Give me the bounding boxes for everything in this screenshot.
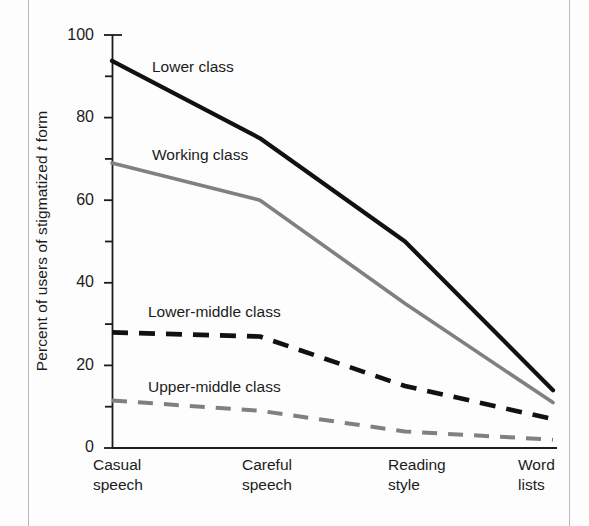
series-line-lower-class [112,61,553,390]
x-tick-label-line1: Reading [388,455,446,475]
y-tick-label-100: 100 [52,26,94,44]
x-tick-label-line2: style [388,475,446,495]
x-tick-label-line2: speech [242,475,292,495]
y-tick-label-60: 60 [52,191,94,209]
y-tick-label-40: 40 [52,273,94,291]
x-tick-label-careful-speech: Careful speech [242,455,292,495]
y-tick-label-20: 20 [52,356,94,374]
series-annotation-lower-middle-class: Lower-middle class [148,303,281,321]
x-tick-label-casual-speech: Casual speech [93,455,143,495]
y-axis-title-italic: t [33,147,50,151]
x-tick-label-reading-style: Reading style [388,455,446,495]
y-tick-label-0: 0 [52,438,94,456]
x-tick-label-line2: lists [518,475,555,495]
line-chart-figure: Percent of users of stigmatized t form 1… [0,0,589,526]
x-tick-label-line1: Casual [93,455,143,475]
y-axis-title-prefix: Percent of users of stigmatized [33,151,50,371]
x-tick-label-line1: Word [518,455,555,475]
x-tick-label-line2: speech [93,475,143,495]
y-axis-minor-ticks [105,76,112,406]
y-axis-title-suffix: form [33,111,50,147]
series-line-working-class [112,163,553,403]
y-axis-title: Percent of users of stigmatized t form [33,81,51,401]
x-tick-label-word-lists: Word lists [518,455,555,495]
series-annotation-working-class: Working class [152,146,248,164]
series-annotation-upper-middle-class: Upper-middle class [148,378,281,396]
y-tick-label-80: 80 [52,108,94,126]
x-tick-label-line1: Careful [242,455,292,475]
series-annotation-lower-class: Lower class [152,58,234,76]
